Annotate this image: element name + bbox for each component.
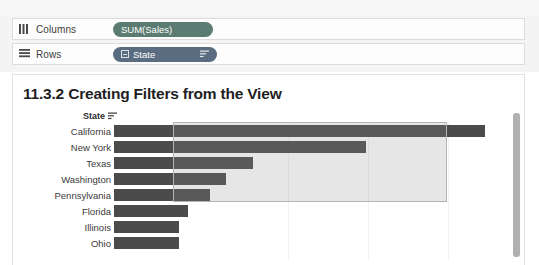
bar[interactable] [114, 237, 179, 249]
table-row[interactable]: Pennsylvania [13, 187, 525, 203]
table-row[interactable]: Florida [13, 203, 525, 219]
columns-label-text: Columns [36, 24, 76, 35]
table-row[interactable]: New York [13, 139, 525, 155]
axis-header-label: State [83, 111, 105, 121]
rows-shelf-label: Rows [13, 49, 113, 60]
table-row[interactable]: Ohio [13, 235, 525, 251]
pill-state-text: State [133, 49, 155, 60]
bar[interactable] [114, 125, 485, 137]
columns-shelf-label: Columns [13, 24, 113, 35]
vertical-scrollbar[interactable] [511, 111, 522, 263]
row-label: Florida [13, 206, 114, 217]
row-label: Ohio [13, 238, 114, 249]
columns-shelf[interactable]: Columns SUM(Sales) [12, 18, 525, 40]
page-title: 11.3.2 Creating Filters from the View [23, 85, 282, 103]
table-row[interactable]: Texas [13, 155, 525, 171]
row-label: Texas [13, 158, 114, 169]
sort-descending-icon[interactable] [108, 112, 117, 120]
viz-card: 11.3.2 Creating Filters from the View St… [12, 74, 525, 265]
table-row[interactable]: Washington [13, 171, 525, 187]
shelf-area: Columns SUM(Sales) Rows State [0, 0, 539, 72]
row-label: Pennsylvania [13, 190, 114, 201]
bar-chart[interactable]: State California New York Texas [13, 109, 525, 265]
bar[interactable] [114, 189, 210, 201]
globe-icon [121, 50, 129, 58]
table-row[interactable]: Illinois [13, 219, 525, 235]
bar[interactable] [114, 205, 188, 217]
bar[interactable] [114, 157, 253, 169]
pill-sum-sales-text: SUM(Sales) [121, 24, 172, 35]
axis-header-state[interactable]: State [13, 109, 117, 122]
table-row[interactable]: California [13, 123, 525, 139]
rows-shelf[interactable]: Rows State [12, 43, 525, 65]
row-label: New York [13, 142, 114, 153]
shelf-top-strip [0, 0, 539, 16]
columns-icon [19, 24, 30, 34]
bar[interactable] [114, 221, 179, 233]
row-label: Washington [13, 174, 114, 185]
rows-icon [19, 49, 30, 59]
rows-label-text: Rows [36, 49, 61, 60]
pill-sum-sales[interactable]: SUM(Sales) [113, 22, 213, 37]
bar-rows: California New York Texas Washington Pen… [13, 123, 525, 263]
vertical-scrollbar-thumb[interactable] [513, 113, 520, 257]
sort-icon[interactable] [200, 50, 209, 58]
row-label: Illinois [13, 222, 114, 233]
row-label: California [13, 126, 114, 137]
bar[interactable] [114, 173, 226, 185]
pill-state[interactable]: State [113, 47, 217, 62]
bar[interactable] [114, 141, 366, 153]
